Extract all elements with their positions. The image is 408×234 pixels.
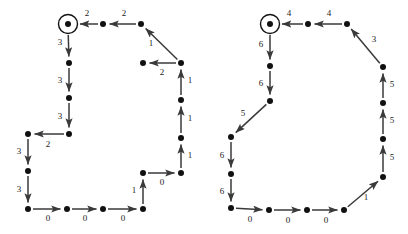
state-node	[380, 64, 386, 70]
state-node	[380, 100, 386, 106]
edge-label: 2	[122, 8, 127, 18]
edge-label: 5	[390, 152, 395, 162]
state-node	[228, 134, 234, 140]
state-node	[304, 207, 310, 213]
state-node	[64, 206, 70, 212]
edge-label: 0	[46, 213, 51, 223]
edge-label: 1	[149, 38, 154, 48]
edge-label: 1	[188, 150, 193, 160]
graph-edge	[68, 35, 69, 57]
edge-label: 6	[259, 39, 264, 49]
edges-layer	[28, 24, 383, 210]
state-node	[25, 131, 31, 137]
edge-label: 3	[58, 111, 63, 121]
edge-label: 0	[324, 215, 329, 225]
state-node	[266, 207, 272, 213]
automata-diagram: 221111201000332333443555100066566	[0, 0, 408, 234]
edge-label: 3	[58, 75, 63, 85]
state-node	[178, 60, 184, 66]
edge-label: 0	[83, 213, 88, 223]
state-node	[140, 60, 146, 66]
edge-label: 1	[188, 75, 193, 85]
edge-label: 3	[58, 37, 63, 47]
state-node	[305, 21, 311, 27]
state-node	[25, 206, 31, 212]
edge-label: 4	[287, 8, 292, 18]
edge-label: 3	[17, 146, 22, 156]
edge-label: 1	[132, 185, 137, 195]
edge-label: 5	[390, 115, 395, 125]
edge-label: 1	[188, 113, 193, 123]
edge-label: 5	[390, 79, 395, 89]
state-node	[66, 60, 72, 66]
state-node	[178, 135, 184, 141]
state-node	[140, 170, 146, 176]
edge-label: 0	[121, 213, 126, 223]
edge-label: 2	[85, 8, 90, 18]
state-node	[228, 171, 234, 177]
accepting-state-node	[65, 21, 71, 27]
edge-labels-layer: 221111201000332333443555100066566	[17, 8, 395, 225]
state-node	[178, 170, 184, 176]
state-node	[66, 131, 72, 137]
state-node	[267, 98, 273, 104]
state-node	[66, 95, 72, 101]
state-node	[380, 174, 386, 180]
state-node	[178, 97, 184, 103]
edge-label: 5	[241, 108, 246, 118]
edge-label: 1	[364, 192, 369, 202]
state-node	[228, 205, 234, 211]
state-node	[100, 21, 106, 27]
edge-label: 2	[46, 139, 51, 149]
state-node	[267, 63, 273, 69]
edge-label: 3	[372, 34, 377, 44]
edge-label: 0	[248, 214, 253, 224]
edge-label: 6	[220, 150, 225, 160]
edge-label: 4	[327, 8, 332, 18]
graph-edge	[236, 208, 263, 209]
edge-label: 0	[286, 215, 291, 225]
edge-label: 2	[160, 67, 165, 77]
edge-label: 6	[220, 186, 225, 196]
state-node	[100, 206, 106, 212]
accepting-state-node	[267, 21, 273, 27]
edge-label: 0	[160, 177, 165, 187]
state-node	[25, 168, 31, 174]
figure-canvas: 221111201000332333443555100066566	[0, 0, 408, 234]
state-node	[341, 207, 347, 213]
state-node	[138, 21, 144, 27]
nodes-layer	[25, 15, 386, 214]
state-node	[344, 21, 350, 27]
edge-label: 6	[259, 78, 264, 88]
state-node	[380, 136, 386, 142]
edge-label: 3	[17, 184, 22, 194]
state-node	[140, 206, 146, 212]
